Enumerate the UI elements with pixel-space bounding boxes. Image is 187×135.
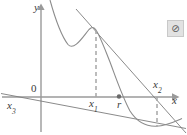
root-label: r — [117, 99, 121, 110]
function-curve — [50, 0, 182, 126]
newton-method-figure: y x 0 x1 x2 x3 r ⊘ — [0, 0, 187, 135]
x2-label: x2 — [153, 79, 162, 93]
x3-label: x3 — [7, 100, 16, 114]
y-axis-label: y — [34, 2, 39, 13]
origin-label: 0 — [31, 83, 37, 94]
x-axis-label: x — [172, 95, 177, 106]
watermark-icon: ⊘ — [167, 20, 184, 37]
plot-canvas — [0, 0, 187, 135]
x1-label-subscript: 1 — [94, 105, 98, 114]
y-axis — [37, 4, 44, 133]
x3-label-subscript: 3 — [12, 107, 16, 116]
x1-label: x1 — [89, 98, 98, 112]
x2-label-subscript: 2 — [158, 86, 162, 95]
